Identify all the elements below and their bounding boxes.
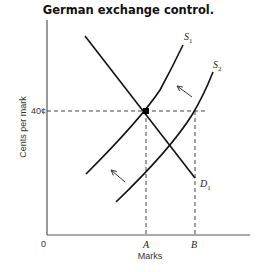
- s2-label-sub: 2: [218, 65, 222, 73]
- y-axis-label: Cents per mark: [18, 82, 28, 172]
- x-tick-a: A: [143, 239, 149, 250]
- d1-label: D1: [200, 178, 211, 192]
- d1-label-sub: 1: [207, 184, 211, 192]
- chart-canvas: [0, 0, 257, 272]
- shift-arrow-upper-shaft: [177, 86, 192, 97]
- s2-label: S2: [213, 59, 222, 73]
- s1-curve: [86, 45, 183, 174]
- origin-label: 0: [41, 239, 46, 249]
- shift-arrow-lower-shaft: [111, 170, 125, 182]
- d1-curve: [85, 36, 195, 178]
- s2-curve: [116, 72, 213, 202]
- x-axis-label: Marks: [100, 251, 200, 261]
- equilibrium-point: [143, 108, 149, 114]
- x-tick-b: B: [191, 239, 197, 250]
- y-tick-40: 40¢: [31, 106, 46, 116]
- s1-label: S1: [184, 31, 193, 45]
- s1-label-sub: 1: [189, 37, 193, 45]
